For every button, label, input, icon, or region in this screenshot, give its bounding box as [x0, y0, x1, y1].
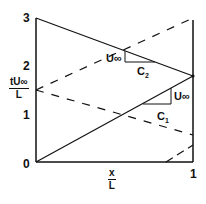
- x-axis-label: x L: [108, 168, 116, 191]
- y-tick-1: 1: [23, 109, 30, 121]
- y-axis-label-denominator: L: [9, 89, 29, 100]
- x-axis-label-numerator: x: [108, 168, 116, 180]
- y-tick-0: 0: [23, 158, 30, 170]
- y-axis-label: tU∞ L: [9, 77, 29, 100]
- lower-slope-c-letter: C: [157, 110, 165, 122]
- upper-slope-c-sub: 2: [145, 72, 149, 79]
- y-tick-3: 3: [23, 12, 30, 24]
- dashed-corner-line: [166, 145, 193, 162]
- y-axis-label-numerator: tU∞: [9, 77, 29, 89]
- wave-diagram: [0, 0, 206, 204]
- lower-slope-u-label: U∞: [174, 91, 190, 102]
- solid-descending-line: [36, 18, 193, 76]
- upper-slope-c-label: C2: [137, 66, 149, 79]
- upper-slope-u-label: U∞: [106, 53, 122, 64]
- lower-slope-c-sub: 1: [165, 117, 169, 124]
- x-axis-label-denominator: L: [108, 180, 116, 191]
- lower-slope-c-label: C1: [157, 111, 169, 124]
- dashed-descending-line: [36, 90, 193, 135]
- intersection-point: [191, 74, 194, 77]
- x-tick-1: 1: [190, 168, 197, 180]
- solid-ascending-line: [36, 76, 193, 162]
- upper-slope-c-letter: C: [137, 65, 145, 77]
- y-tick-2: 2: [23, 60, 30, 72]
